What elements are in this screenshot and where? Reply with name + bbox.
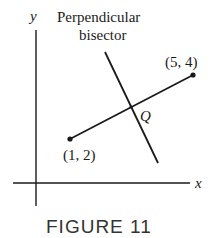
- figure-caption: FIGURE 11: [46, 216, 152, 237]
- bisector-label-line2: bisector: [79, 27, 126, 43]
- point-b-label: (5, 4): [165, 54, 198, 71]
- x-axis-label: x: [194, 175, 202, 191]
- bisector-label-line1: Perpendicular: [57, 9, 140, 25]
- point-b-dot: [190, 72, 195, 77]
- midpoint-label: Q: [140, 108, 151, 124]
- point-a-label: (1, 2): [63, 147, 96, 164]
- figure-11: y x Perpendicular bisector Q (1, 2) (5, …: [0, 0, 212, 238]
- diagram-canvas: y x Perpendicular bisector Q (1, 2) (5, …: [0, 0, 212, 238]
- y-axis-label: y: [28, 8, 37, 24]
- point-a-dot: [67, 136, 72, 141]
- midpoint-q-dot: [129, 105, 132, 108]
